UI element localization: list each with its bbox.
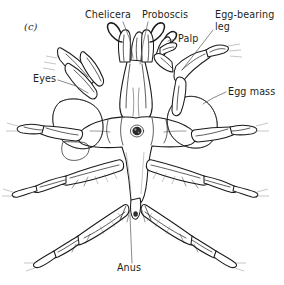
label-egg-bearing-leg-line2: leg [215,21,230,32]
label-egg-mass: Egg mass [228,86,275,97]
label-eyes: Eyes [33,73,56,84]
figure-panel-c: (c) Chelicera Proboscis Palp Egg-bearing… [0,0,284,285]
panel-letter: (c) [24,21,38,32]
label-egg-bearing-leg-line1: Egg-bearing [215,9,274,20]
label-chelicera: Chelicera [85,9,131,20]
sea-spider-illustration: (c) Chelicera Proboscis Palp Egg-bearing… [0,0,284,285]
label-proboscis: Proboscis [142,9,188,20]
anus-opening [133,211,138,217]
ocular-tubercle [130,125,143,137]
label-palp: Palp [178,33,198,44]
label-anus: Anus [117,262,141,273]
